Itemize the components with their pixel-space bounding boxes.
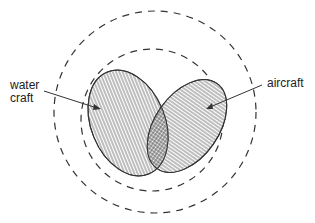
aircraft-label: aircraft bbox=[267, 77, 304, 90]
venn-diagram bbox=[0, 0, 315, 223]
water-craft-label: water craft bbox=[10, 79, 39, 105]
water-craft-label-line2: craft bbox=[10, 92, 39, 105]
